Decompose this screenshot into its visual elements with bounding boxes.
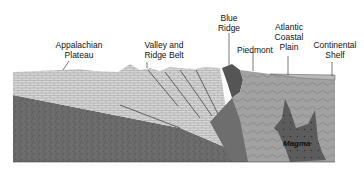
label-blue-ridge: Blue Ridge bbox=[212, 13, 246, 33]
label-magma: Magma bbox=[283, 139, 311, 148]
geologic-cross-section bbox=[0, 0, 364, 182]
label-appalachian-plateau: Appalachian Plateau bbox=[40, 40, 118, 60]
label-atlantic-coastal-plain: Atlantic Coastal Plain bbox=[269, 22, 309, 52]
label-continental-shelf: Continental Shelf bbox=[306, 40, 364, 60]
label-valley-ridge-belt: Valley and Ridge Belt bbox=[134, 40, 194, 60]
